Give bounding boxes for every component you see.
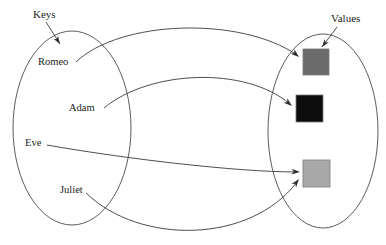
key-label-juliet: Juliet [60, 184, 83, 195]
key-labels-group: RomeoAdamEveJuliet [25, 56, 95, 195]
mapping-arrows-group [47, 28, 301, 230]
values-title: Values [331, 12, 360, 24]
value-square-black-value [296, 95, 323, 122]
arrow-head [320, 39, 329, 49]
key-label-eve: Eve [25, 137, 42, 148]
keys-title: Keys [33, 8, 56, 20]
mapping-arrow-romeo [76, 28, 297, 62]
value-square-dark-gray-value [303, 49, 329, 75]
key-value-diagram: RomeoAdamEveJuliet Keys Values [0, 0, 386, 245]
value-square-light-gray-value [303, 160, 330, 187]
arrow-head [53, 36, 62, 46]
key-label-adam: Adam [69, 102, 95, 113]
arrow-head [291, 177, 301, 187]
diagram-canvas: RomeoAdamEveJuliet Keys Values [0, 0, 386, 245]
keys-ellipse [13, 31, 131, 225]
mapping-arrow-eve [47, 145, 297, 172]
mapping-arrow-adam [104, 77, 290, 108]
keys-set-group [13, 31, 131, 225]
key-label-romeo: Romeo [38, 56, 68, 67]
value-boxes-group [296, 49, 330, 187]
